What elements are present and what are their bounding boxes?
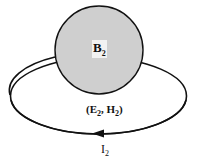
arrow-icon [92,130,104,138]
diagram-canvas [0,0,197,166]
current-loop-back [9,57,55,95]
current-label: I2 [101,142,109,158]
field-label: (E2, H2) [86,103,123,118]
body-label: B2 [92,40,107,58]
